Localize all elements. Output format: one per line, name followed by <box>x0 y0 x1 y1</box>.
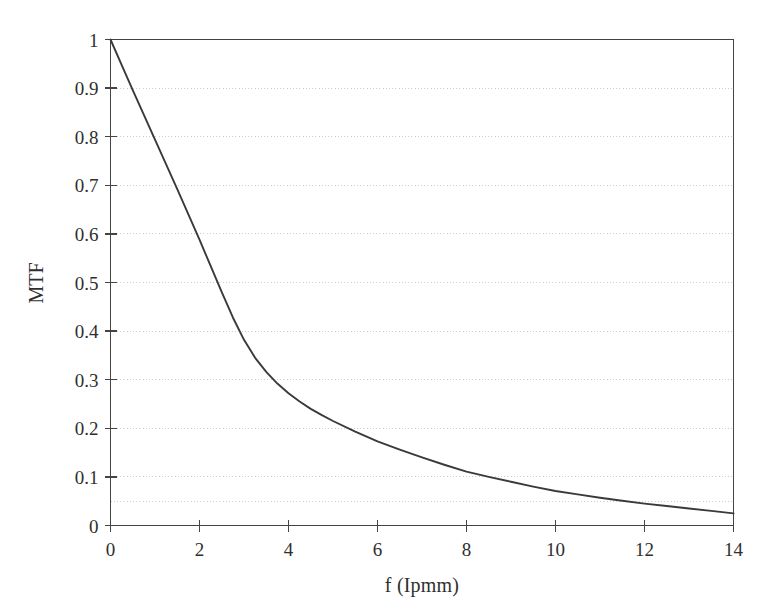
x-tick-label: 10 <box>546 540 565 559</box>
x-tick-label: 0 <box>106 540 116 559</box>
y-tick-label: 0.2 <box>75 419 99 438</box>
y-axis-label: MTF <box>25 262 48 303</box>
y-tick-label: 1 <box>89 30 99 49</box>
y-tick-label: 0.5 <box>75 273 99 292</box>
x-tick-label: 2 <box>195 540 205 559</box>
y-tick-label: 0.3 <box>75 370 99 389</box>
x-tick-label: 4 <box>284 540 294 559</box>
y-tick-label: 0.4 <box>75 322 99 341</box>
y-tick-label: 0.1 <box>75 467 99 486</box>
y-tick-label: 0.6 <box>75 224 99 243</box>
x-tick-label: 12 <box>635 540 654 559</box>
plot-canvas <box>0 0 774 616</box>
gridlines-group <box>111 88 734 501</box>
x-tick-label: 6 <box>373 540 383 559</box>
data-series-group <box>111 40 734 514</box>
y-tick-label: 0.9 <box>75 79 99 98</box>
axis-ticks-group <box>105 40 734 532</box>
y-tick-label: 0 <box>89 516 99 535</box>
x-axis-label: f (Ipmm) <box>385 574 459 597</box>
x-tick-label: 8 <box>462 540 472 559</box>
y-tick-label: 0.8 <box>75 127 99 146</box>
mtf-chart-figure: 00.10.20.30.40.50.60.70.80.91 0246810121… <box>0 0 774 616</box>
y-tick-label: 0.7 <box>75 176 99 195</box>
x-tick-label: 14 <box>724 540 743 559</box>
mtf-curve <box>111 40 734 514</box>
